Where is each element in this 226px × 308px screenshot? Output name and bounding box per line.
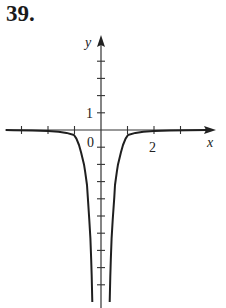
x-axis-label: x	[206, 135, 214, 150]
curve-right-branch	[110, 130, 207, 302]
x-tick-label-2: 2	[149, 140, 156, 155]
y-axis	[97, 35, 105, 308]
y-axis-label: y	[83, 35, 92, 50]
origin-label: 0	[87, 135, 94, 150]
curves	[6, 130, 207, 302]
y-tick-label-1: 1	[86, 106, 93, 121]
graph: y x 1 0 2	[0, 0, 226, 308]
curve-left-branch	[6, 130, 93, 302]
